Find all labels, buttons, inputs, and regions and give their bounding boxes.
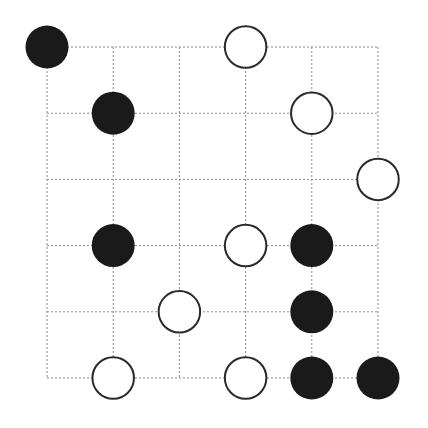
black-stone <box>92 224 135 267</box>
white-stone <box>92 357 134 399</box>
grid-lines <box>47 47 378 378</box>
black-stone <box>26 26 69 69</box>
white-stone <box>225 225 267 267</box>
grid-board <box>0 0 428 428</box>
white-stone <box>225 357 267 399</box>
stones-layer <box>26 26 400 400</box>
white-stone <box>291 92 333 134</box>
black-stone <box>290 290 333 333</box>
black-stone <box>357 357 400 400</box>
black-stone <box>290 357 333 400</box>
black-stone <box>290 224 333 267</box>
black-stone <box>92 92 135 135</box>
white-stone <box>159 291 201 333</box>
white-stone <box>357 159 399 201</box>
white-stone <box>225 26 267 68</box>
